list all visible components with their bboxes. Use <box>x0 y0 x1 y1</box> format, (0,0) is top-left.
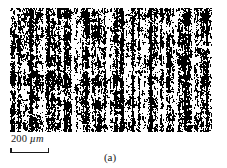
scale-bar-unit: µm <box>30 133 44 144</box>
micrograph-canvas <box>10 8 212 132</box>
micrograph-image <box>10 8 212 132</box>
scale-bar-label: 200 µm <box>11 133 44 144</box>
panel-caption: (a) <box>0 151 220 164</box>
scale-bar-value: 200 <box>11 133 27 144</box>
figure-panel: 200 µm (a) <box>0 0 227 168</box>
